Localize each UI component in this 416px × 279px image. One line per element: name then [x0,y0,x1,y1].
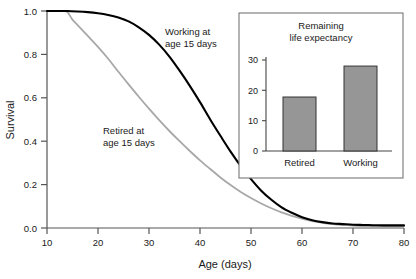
inset-y-tick-label: 30 [248,55,258,65]
y-tick-label: 0.8 [24,49,37,60]
annotation-retired-line2: age 15 days [103,137,155,148]
x-tick-label: 30 [144,237,155,248]
inset-title-line1: Remaining [298,20,343,31]
x-tick-label: 50 [246,237,257,248]
survival-figure: 0.0 0.2 0.4 0.6 0.8 1.0 10 20 [0,0,416,279]
inset-bar-retired [283,97,316,151]
y-axis-tick-labels: 0.0 0.2 0.4 0.6 0.8 1.0 [24,6,37,234]
annotation-working-line1: Working at [165,26,211,37]
x-tick-label: 10 [42,237,53,248]
y-tick-label: 0.6 [24,92,37,103]
inset-title-line2: life expectancy [290,32,353,43]
inset-bar-working [344,66,377,151]
x-axis-title: Age (days) [198,258,251,270]
x-tick-label: 40 [195,237,206,248]
annotation-working-line2: age 15 days [165,38,217,49]
y-axis-ticks [41,11,47,228]
inset-y-tick-label: 10 [248,116,258,126]
chart-svg: 0.0 0.2 0.4 0.6 0.8 1.0 10 20 [0,0,416,279]
x-tick-label: 20 [93,237,104,248]
y-tick-label: 0.0 [24,223,37,234]
inset-category-label-retired: Retired [284,157,315,168]
x-tick-label: 70 [348,237,359,248]
annotation-retired: Retired at age 15 days [103,125,155,148]
x-tick-label: 60 [297,237,308,248]
inset-y-tick-label: 20 [248,86,258,96]
y-tick-label: 0.4 [24,136,37,147]
y-tick-label: 0.2 [24,179,37,190]
x-tick-label: 80 [399,237,410,248]
annotation-retired-line1: Retired at [103,125,145,136]
inset-category-label-working: Working [343,157,378,168]
annotation-working: Working at age 15 days [165,26,217,49]
inset-chart: Remaining life expectancy 0 10 20 30 Ret… [239,13,403,178]
inset-y-tick-label: 0 [253,146,258,156]
x-axis-tick-labels: 10 20 30 40 50 60 70 80 [42,237,410,248]
x-axis-ticks [47,228,404,234]
y-tick-label: 1.0 [24,6,37,17]
y-axis-title: Survival [4,100,16,139]
